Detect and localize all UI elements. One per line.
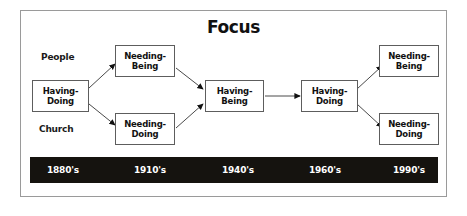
node-line-2: Being bbox=[132, 61, 158, 71]
node-needing-being-1990[interactable]: Needing- Being bbox=[379, 45, 439, 77]
node-line-2: Doing bbox=[47, 96, 74, 106]
timeline-tick-1990s: 1990's bbox=[393, 165, 425, 175]
node-needing-doing-1910[interactable]: Needing- Doing bbox=[115, 113, 175, 145]
timeline-tick-1880s: 1880's bbox=[47, 165, 79, 175]
node-needing-being-1910[interactable]: Needing- Being bbox=[115, 45, 175, 77]
node-line-1: Needing- bbox=[124, 51, 166, 61]
node-line-2: Doing bbox=[132, 129, 159, 139]
timeline-tick-1960s: 1960's bbox=[309, 165, 341, 175]
timeline-bar: 1880's 1910's 1940's 1960's 1990's bbox=[30, 157, 438, 183]
node-line-2: Being bbox=[396, 61, 422, 71]
timeline-tick-1910s: 1910's bbox=[134, 165, 166, 175]
node-line-2: Being bbox=[221, 96, 247, 106]
page-title: Focus bbox=[0, 17, 467, 37]
node-line-1: Needing- bbox=[388, 51, 430, 61]
side-label-church: Church bbox=[39, 124, 73, 134]
node-line-1: Needing- bbox=[388, 119, 430, 129]
node-line-1: Having- bbox=[217, 86, 253, 96]
node-needing-doing-1990[interactable]: Needing- Doing bbox=[379, 113, 439, 145]
node-line-2: Doing bbox=[316, 96, 343, 106]
node-having-doing-left[interactable]: Having- Doing bbox=[32, 80, 89, 112]
node-having-being-1940[interactable]: Having- Being bbox=[205, 80, 264, 112]
node-line-2: Doing bbox=[396, 129, 423, 139]
timeline-tick-1940s: 1940's bbox=[222, 165, 254, 175]
node-line-1: Having- bbox=[312, 86, 348, 96]
node-having-doing-1960[interactable]: Having- Doing bbox=[301, 80, 358, 112]
diagram-canvas: Focus People Church Having- bbox=[0, 0, 467, 216]
node-line-1: Having- bbox=[43, 86, 79, 96]
side-label-people: People bbox=[41, 52, 74, 62]
node-line-1: Needing- bbox=[124, 119, 166, 129]
